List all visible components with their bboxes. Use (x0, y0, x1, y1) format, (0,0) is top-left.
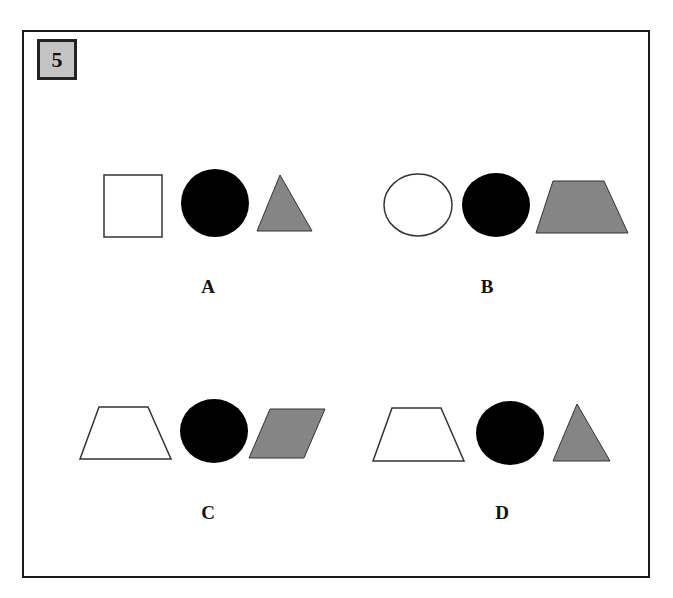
gray-trapezoid-icon (536, 181, 628, 233)
white-trapezoid-icon (80, 407, 171, 459)
option-d-shapes[interactable] (373, 401, 610, 465)
black-circle-icon (180, 399, 248, 463)
white-circle-icon (384, 174, 452, 236)
option-a-shapes[interactable] (104, 169, 312, 237)
white-trapezoid-icon (373, 408, 464, 461)
white-square-icon (104, 175, 162, 237)
black-circle-icon (181, 169, 249, 237)
option-c-shapes[interactable] (80, 399, 325, 463)
gray-triangle-icon (553, 404, 610, 461)
option-label-c[interactable]: C (193, 502, 223, 524)
gray-parallelogram-icon (249, 409, 325, 458)
option-label-d[interactable]: D (487, 502, 517, 524)
shapes-canvas (0, 0, 673, 598)
option-label-b[interactable]: B (472, 276, 502, 298)
option-b-shapes[interactable] (384, 173, 628, 237)
black-circle-icon (462, 173, 530, 237)
gray-triangle-icon (257, 175, 312, 231)
black-circle-icon (476, 401, 544, 465)
option-label-a[interactable]: A (193, 276, 223, 298)
